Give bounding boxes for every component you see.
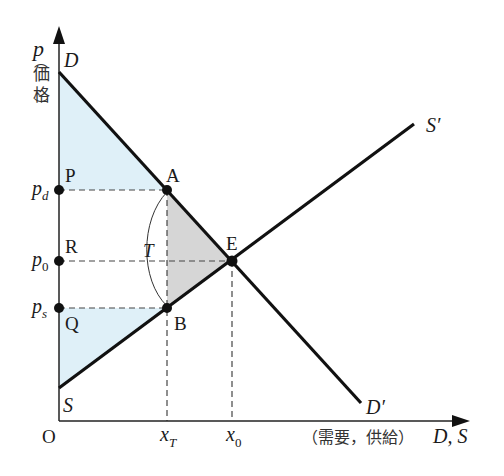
point-ps [54,303,64,313]
demand-start-label: D [63,49,79,71]
x-axis-symbol: D, S [432,425,467,447]
label-E: E [226,233,238,254]
x-axis-label-jp: （需要，供給） [302,428,414,447]
label-B: B [174,313,187,334]
label-R: R [65,236,78,257]
demand-end-label: D′ [365,396,385,418]
tick-ps: ps [30,295,47,321]
point-p0 [54,256,64,266]
y-axis-paren-close: ︶ [34,97,48,113]
tick-x0: x0 [225,423,241,450]
tax-label: T [143,240,155,261]
label-Q: Q [65,313,79,334]
y-axis-arrow-icon [53,26,65,44]
label-A: A [166,165,180,186]
supply-end-label: S′ [426,114,441,136]
point-A [162,185,172,195]
tick-pd: pd [30,177,49,203]
tick-xT: xT [159,423,177,450]
tax-diagram: p ︵ 価 格 ︶ D D′ S S′ P R Q A B E T pd p0 … [0,0,504,476]
y-axis-label-1: 価 [33,64,50,84]
supply-start-label: S [63,394,73,416]
origin-label: O [42,426,56,447]
point-B [162,303,172,313]
point-E [227,256,238,267]
tick-p0: p0 [30,248,49,274]
label-P: P [65,165,76,186]
point-pd [54,185,64,195]
